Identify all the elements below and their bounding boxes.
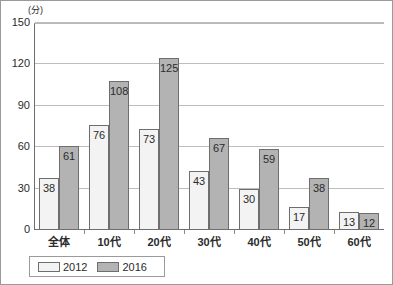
y-tick-label-150: 150: [1, 17, 30, 28]
legend-swatch-icon-2012: [38, 262, 60, 272]
bar-value-label: 73: [140, 133, 158, 145]
bar-2012-40代: 30: [239, 189, 259, 230]
x-tick-3: [184, 230, 185, 234]
x-category-label-6: 60代: [334, 235, 384, 249]
bar-group-6: 1312: [334, 23, 384, 230]
bar-value-label: 125: [160, 62, 178, 74]
bar-2016-50代: 38: [309, 178, 329, 230]
bar-value-label: 38: [310, 182, 328, 194]
bar-value-label: 43: [190, 175, 208, 187]
x-tick-1: [84, 230, 85, 234]
x-tick-5: [284, 230, 285, 234]
bar-group-2: 73125: [134, 23, 184, 230]
bar-2016-40代: 59: [259, 149, 279, 230]
bar-2016-60代: 12: [359, 213, 379, 230]
y-axis-tick-labels: 0306090120150: [1, 23, 30, 230]
bar-group-1: 76108: [84, 23, 134, 230]
bar-value-label: 67: [210, 142, 228, 154]
bar-2016-全体: 61: [59, 146, 79, 230]
bar-value-label: 76: [90, 129, 108, 141]
y-tick-label-30: 30: [1, 183, 30, 194]
bar-value-label: 61: [60, 150, 78, 162]
bar-group-0: 3861: [34, 23, 84, 230]
bar-2012-10代: 76: [89, 125, 109, 230]
legend-swatch-icon-2016: [97, 262, 119, 272]
y-tick-label-90: 90: [1, 100, 30, 111]
bar-2012-20代: 73: [139, 129, 159, 230]
bar-2012-50代: 17: [289, 207, 309, 230]
x-axis-category-labels: 全体10代20代30代40代50代60代: [34, 235, 384, 251]
bar-value-label: 108: [110, 85, 128, 97]
y-tick-label-60: 60: [1, 141, 30, 152]
bar-group-4: 3059: [234, 23, 284, 230]
legend-label: 2012: [63, 261, 87, 273]
bar-value-label: 12: [360, 217, 378, 229]
legend-item-2016[interactable]: 2016: [97, 261, 146, 273]
bar-2016-20代: 125: [159, 58, 179, 231]
bar-2012-30代: 43: [189, 171, 209, 230]
bar-value-label: 59: [260, 153, 278, 165]
bar-2016-30代: 67: [209, 138, 229, 230]
bar-group-5: 1738: [284, 23, 334, 230]
x-category-label-3: 30代: [184, 235, 234, 249]
bar-value-label: 30: [240, 193, 258, 205]
x-category-label-4: 40代: [234, 235, 284, 249]
bar-group-3: 4367: [184, 23, 234, 230]
y-tick-label-0: 0: [1, 224, 30, 235]
bar-2012-60代: 13: [339, 212, 359, 230]
bar-2016-10代: 108: [109, 81, 129, 230]
legend-item-2012[interactable]: 2012: [38, 261, 87, 273]
x-tick-4: [234, 230, 235, 234]
y-axis-unit-label: (分): [28, 5, 43, 16]
y-tick-label-120: 120: [1, 58, 30, 69]
chart-legend: 20122016: [29, 256, 165, 277]
x-category-label-5: 50代: [284, 235, 334, 249]
x-tick-2: [134, 230, 135, 234]
legend-label: 2016: [122, 261, 146, 273]
bar-chart-figure: (分) 0306090120150 3861761087312543673059…: [0, 0, 393, 285]
bars-layer: 386176108731254367305917381312: [34, 23, 384, 230]
x-category-label-0: 全体: [34, 235, 84, 249]
bar-value-label: 17: [290, 211, 308, 223]
x-tick-6: [334, 230, 335, 234]
bar-2012-全体: 38: [39, 178, 59, 230]
x-category-label-1: 10代: [84, 235, 134, 249]
x-category-label-2: 20代: [134, 235, 184, 249]
bar-value-label: 38: [40, 182, 58, 194]
bar-value-label: 13: [340, 216, 358, 228]
